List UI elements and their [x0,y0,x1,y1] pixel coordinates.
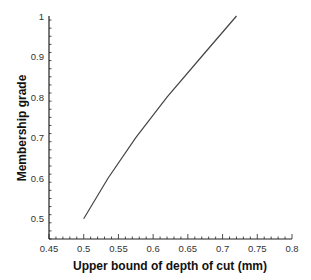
x-tick-label: 0.65 [179,243,198,254]
x-tick-label: 0.45 [40,243,59,254]
y-tick-label: 1 [39,11,44,22]
y-tick-label: 0.6 [31,173,44,184]
y-tick-label: 0.5 [31,213,44,224]
x-tick-label: 0.5 [77,243,90,254]
x-tick-label: 0.8 [285,243,298,254]
y-axis-title: Membership grade [15,74,29,181]
y-tick-label: 0.9 [31,51,44,62]
chart: 0.450.50.550.60.650.70.750.80.50.60.70.8… [0,0,311,280]
x-tick-label: 0.7 [216,243,229,254]
x-tick-label: 0.75 [248,243,267,254]
x-tick-label: 0.55 [109,243,128,254]
data-line [84,16,237,219]
y-tick-label: 0.7 [31,132,44,143]
ticks: 0.450.50.550.60.650.70.750.80.50.60.70.8… [31,11,299,255]
x-tick-label: 0.6 [147,243,160,254]
x-axis-title: Upper bound of depth of cut (mm) [73,259,267,273]
axes [49,16,292,239]
y-tick-label: 0.8 [31,92,44,103]
